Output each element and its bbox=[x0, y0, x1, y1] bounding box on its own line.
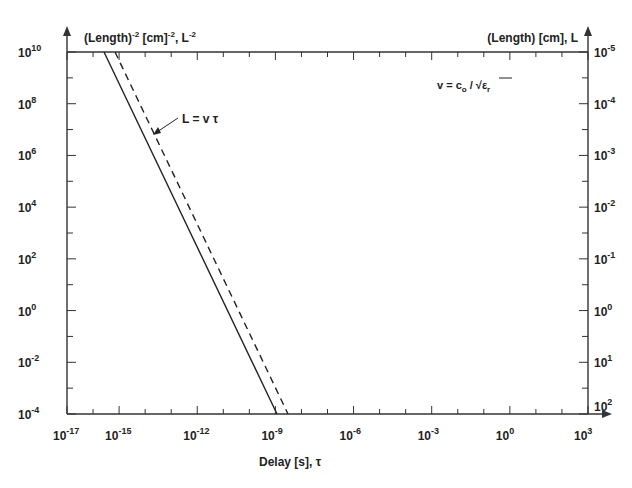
y-right-tick-labels: 10-510-410-310-210-1100101102 bbox=[594, 43, 615, 414]
x-ticks bbox=[67, 52, 588, 414]
tick-label: 10-17 bbox=[53, 426, 79, 443]
right-axis-arrow-icon bbox=[584, 26, 592, 36]
tick-label: 10-12 bbox=[183, 426, 209, 443]
tick-label: 103 bbox=[574, 426, 592, 443]
left-axis-label: (Length)-2 [cm]-2, L-2 bbox=[84, 30, 197, 45]
x-tick-labels: 10-1710-1510-1210-910-610-3100103 bbox=[53, 426, 592, 443]
tick-label: 10-15 bbox=[105, 426, 131, 443]
right-axis-label: (Length) [cm], L bbox=[487, 31, 578, 45]
tick-label: 10-1 bbox=[594, 250, 615, 267]
axes bbox=[67, 34, 604, 414]
annotation-label: L = v τ bbox=[182, 112, 219, 126]
tick-label: 101 bbox=[594, 353, 612, 370]
tick-label: 10-2 bbox=[594, 198, 615, 215]
tick-label: 106 bbox=[18, 146, 36, 163]
tick-label: 10-3 bbox=[418, 426, 439, 443]
tick-label: 10-3 bbox=[594, 146, 615, 163]
tick-label: 100 bbox=[496, 426, 514, 443]
tick-label: 10-4 bbox=[18, 405, 39, 422]
chart: (Length)-2 [cm]-2, L-2 (Length) [cm], L … bbox=[0, 0, 632, 488]
tick-label: 10-2 bbox=[18, 353, 39, 370]
series-solid-line bbox=[104, 52, 277, 414]
tick-label: 104 bbox=[18, 198, 36, 215]
tick-label: 108 bbox=[18, 95, 36, 112]
left-axis-arrow-icon bbox=[63, 26, 71, 36]
velocity-formula: v = co / √εr bbox=[437, 79, 490, 94]
tick-label: 10-6 bbox=[340, 426, 361, 443]
y-left-tick-labels: 101010810610410210010-210-4 bbox=[18, 43, 41, 422]
y-ticks bbox=[67, 52, 588, 414]
tick-label: 100 bbox=[594, 302, 612, 319]
tick-label: 10-4 bbox=[594, 95, 615, 112]
x-axis-label: Delay [s], τ bbox=[259, 455, 322, 469]
annotation-arrow-head-icon bbox=[153, 127, 161, 135]
tick-label: 1010 bbox=[18, 43, 41, 60]
tick-label: 102 bbox=[18, 250, 36, 267]
series-dashed-line bbox=[115, 52, 288, 414]
annotation-arrow bbox=[157, 118, 178, 132]
tick-label: 10-9 bbox=[261, 426, 282, 443]
tick-label: 100 bbox=[18, 302, 36, 319]
tick-label: 10-5 bbox=[594, 43, 615, 60]
tick-label: 102 bbox=[594, 397, 612, 414]
